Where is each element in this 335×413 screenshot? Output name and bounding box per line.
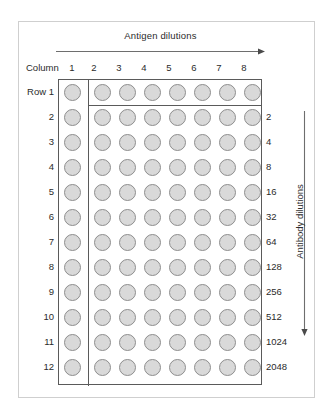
well-r9-c6 xyxy=(194,284,211,301)
well-r2-c3 xyxy=(119,109,136,126)
column-number-3: 3 xyxy=(108,62,130,73)
antibody-dilutions-axis: Antibody dilutions xyxy=(286,110,314,338)
well-r8-c1 xyxy=(64,259,81,276)
column-divider xyxy=(88,80,89,386)
row-label-12: 12 xyxy=(8,361,54,372)
well-r5-c8 xyxy=(244,184,261,201)
row-label-11: 11 xyxy=(8,336,54,347)
well-r12-c2 xyxy=(94,359,111,376)
column-number-2: 2 xyxy=(83,62,105,73)
well-r2-c4 xyxy=(144,109,161,126)
well-r5-c7 xyxy=(219,184,236,201)
well-r4-c2 xyxy=(94,159,111,176)
well-r7-c4 xyxy=(144,234,161,251)
well-r1-c7 xyxy=(219,84,236,101)
well-r1-c5 xyxy=(169,84,186,101)
well-r3-c4 xyxy=(144,134,161,151)
well-r11-c1 xyxy=(64,334,81,351)
well-r4-c3 xyxy=(119,159,136,176)
well-r11-c2 xyxy=(94,334,111,351)
column-number-8: 8 xyxy=(233,62,255,73)
row-label-8: 8 xyxy=(8,261,54,272)
well-r2-c6 xyxy=(194,109,211,126)
well-r3-c2 xyxy=(94,134,111,151)
well-r5-c4 xyxy=(144,184,161,201)
row-label-column: Row 1 2 3 4 5 6 7 8 9 10 11 12 xyxy=(6,79,54,385)
well-r3-c3 xyxy=(119,134,136,151)
well-r4-c1 xyxy=(64,159,81,176)
column-number-7: 7 xyxy=(208,62,230,73)
well-r3-c6 xyxy=(194,134,211,151)
well-r11-c4 xyxy=(144,334,161,351)
well-r7-c3 xyxy=(119,234,136,251)
well-r10-c1 xyxy=(64,309,81,326)
well-r6-c8 xyxy=(244,209,261,226)
well-r7-c2 xyxy=(94,234,111,251)
row-label-2: 2 xyxy=(8,111,54,122)
well-r10-c5 xyxy=(169,309,186,326)
well-r11-c7 xyxy=(219,334,236,351)
row-label-9: 9 xyxy=(8,286,54,297)
row-label-10: 10 xyxy=(8,311,54,322)
well-r5-c6 xyxy=(194,184,211,201)
row-label-5: 5 xyxy=(8,186,54,197)
column-number-1: 1 xyxy=(61,62,83,73)
well-r8-c5 xyxy=(169,259,186,276)
well-r1-c1 xyxy=(64,84,81,101)
well-r6-c5 xyxy=(169,209,186,226)
well-r11-c6 xyxy=(194,334,211,351)
well-r2-c2 xyxy=(94,109,111,126)
well-r6-c1 xyxy=(64,209,81,226)
well-r5-c3 xyxy=(119,184,136,201)
well-r2-c7 xyxy=(219,109,236,126)
well-r10-c2 xyxy=(94,309,111,326)
arrow-right-icon xyxy=(55,47,267,56)
well-r8-c8 xyxy=(244,259,261,276)
antigen-dilutions-label: Antigen dilutions xyxy=(58,30,263,41)
well-r11-c5 xyxy=(169,334,186,351)
well-r7-c8 xyxy=(244,234,261,251)
well-r10-c3 xyxy=(119,309,136,326)
well-r1-c4 xyxy=(144,84,161,101)
checkerboard-titration-figure: Antigen dilutions Column 1 2 3 4 5 6 7 8… xyxy=(0,0,335,413)
column-number-4: 4 xyxy=(133,62,155,73)
well-r4-c8 xyxy=(244,159,261,176)
well-r1-c2 xyxy=(94,84,111,101)
well-r4-c4 xyxy=(144,159,161,176)
well-r4-c7 xyxy=(219,159,236,176)
well-r6-c7 xyxy=(219,209,236,226)
well-r12-c8 xyxy=(244,359,261,376)
well-r6-c2 xyxy=(94,209,111,226)
well-r1-c3 xyxy=(119,84,136,101)
well-r2-c1 xyxy=(64,109,81,126)
well-r10-c4 xyxy=(144,309,161,326)
row-label-7: 7 xyxy=(8,236,54,247)
well-r2-c8 xyxy=(244,109,261,126)
well-r7-c6 xyxy=(194,234,211,251)
well-r8-c7 xyxy=(219,259,236,276)
well-r6-c4 xyxy=(144,209,161,226)
row-label-1: Row 1 xyxy=(8,86,54,97)
well-r5-c5 xyxy=(169,184,186,201)
well-r3-c5 xyxy=(169,134,186,151)
well-r12-c3 xyxy=(119,359,136,376)
well-r9-c4 xyxy=(144,284,161,301)
row-label-6: 6 xyxy=(8,211,54,222)
well-r9-c2 xyxy=(94,284,111,301)
well-r9-c8 xyxy=(244,284,261,301)
column-header-row: Column 1 2 3 4 5 6 7 8 xyxy=(18,62,268,77)
microtiter-plate xyxy=(58,79,262,385)
well-r11-c3 xyxy=(119,334,136,351)
well-r4-c5 xyxy=(169,159,186,176)
column-number-6: 6 xyxy=(183,62,205,73)
well-r9-c1 xyxy=(64,284,81,301)
well-r7-c5 xyxy=(169,234,186,251)
well-r8-c6 xyxy=(194,259,211,276)
well-r8-c2 xyxy=(94,259,111,276)
well-r10-c7 xyxy=(219,309,236,326)
well-r8-c4 xyxy=(144,259,161,276)
well-r3-c7 xyxy=(219,134,236,151)
row-divider xyxy=(88,105,262,106)
well-r12-c6 xyxy=(194,359,211,376)
row-label-3: 3 xyxy=(8,136,54,147)
